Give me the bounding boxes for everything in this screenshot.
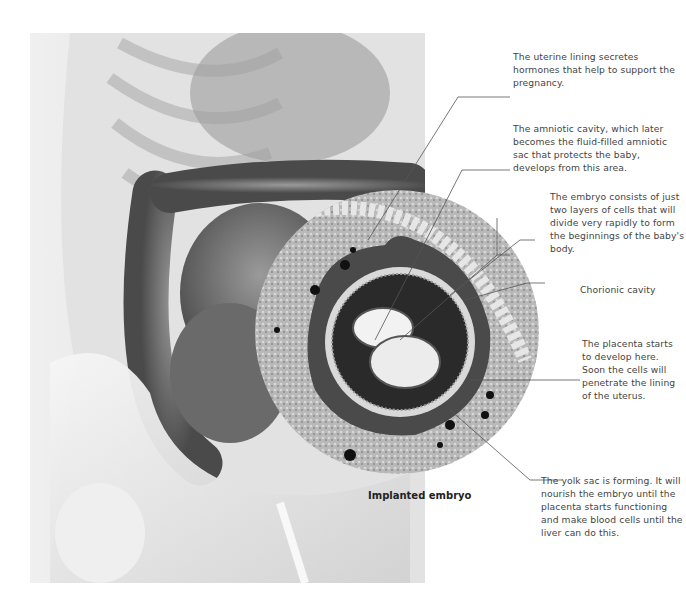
embryo-section-drawing [255, 190, 540, 475]
figure-caption: Implanted embryo [368, 490, 471, 501]
annotation-uterine-lining: The uterine lining secretes hormones tha… [513, 50, 678, 89]
annotation-amniotic-cavity: The amniotic cavity, which later becomes… [513, 122, 678, 174]
annotation-yolk-sac: The yolk sac is forming. It will nourish… [541, 474, 686, 539]
embryo-magnified-view [255, 190, 540, 475]
annotation-embryo-layers: The embryo consists of just two layers o… [550, 190, 686, 255]
annotation-chorionic-cavity: Chorionic cavity [580, 283, 680, 296]
annotation-placenta: The placenta starts to develop here. Soo… [582, 337, 682, 402]
